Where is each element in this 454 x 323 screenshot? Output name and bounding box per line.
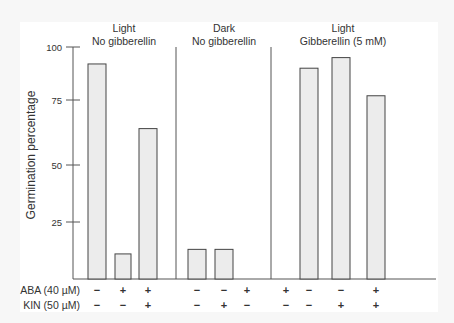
y-axis-label: Germination percentage	[24, 90, 38, 219]
group-dividers	[176, 47, 271, 279]
y-tick-label: 100	[46, 42, 62, 53]
header-light-nogib-line2: No gibberellin	[92, 35, 156, 47]
row-label-kin: KIN (50 µM)	[23, 299, 80, 311]
bar	[215, 249, 233, 279]
condition-signs: −−+−++−−−++−+−−−−+++	[94, 284, 379, 311]
aba-sign: +	[120, 284, 126, 296]
aba-sign: −	[94, 284, 100, 296]
header-light-gib-line2: Gibberellin (5 mM)	[300, 35, 386, 47]
kin-sign: −	[120, 299, 126, 311]
header-light-nogib-line1: Light	[113, 22, 136, 34]
header-dark-line2: No gibberellin	[192, 35, 256, 47]
aba-sign: −	[194, 284, 200, 296]
kin-sign: −	[306, 299, 312, 311]
y-tick-label: 75	[51, 95, 62, 106]
bar	[188, 249, 206, 279]
row-label-aba: ABA (40 µM)	[20, 284, 80, 296]
bar	[300, 68, 318, 279]
aba-sign: −	[221, 284, 227, 296]
aba-sign: +	[283, 284, 289, 296]
kin-sign: −	[244, 299, 250, 311]
aba-sign: +	[373, 284, 379, 296]
bar	[367, 96, 385, 279]
kin-sign: −	[283, 299, 289, 311]
aba-sign: +	[244, 284, 250, 296]
bar	[139, 129, 157, 279]
group-headers: Light No gibberellin Dark No gibberellin…	[92, 22, 386, 47]
bar	[88, 64, 106, 279]
y-tick-label: 50	[51, 160, 62, 171]
kin-sign: +	[145, 299, 151, 311]
bar	[115, 254, 131, 279]
kin-sign: +	[221, 299, 227, 311]
aba-sign: −	[338, 284, 344, 296]
kin-sign: −	[194, 299, 200, 311]
y-tick-label: 25	[51, 217, 62, 228]
kin-sign: +	[338, 299, 344, 311]
header-dark-line1: Dark	[213, 22, 236, 34]
kin-sign: +	[373, 299, 379, 311]
aba-sign: −	[306, 284, 312, 296]
bars	[88, 58, 385, 279]
kin-sign: −	[94, 299, 100, 311]
header-light-gib-line1: Light	[332, 22, 355, 34]
germination-bar-chart: Light No gibberellin Dark No gibberellin…	[0, 0, 454, 323]
aba-sign: +	[145, 284, 151, 296]
bar	[332, 58, 350, 279]
